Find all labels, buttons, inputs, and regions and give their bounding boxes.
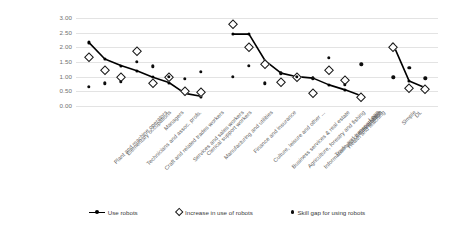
x-axis-tick-label: Finance and insurance [253,110,298,155]
line-segment [233,34,361,96]
legend-item[interactable]: Skill gap for using robots [291,209,365,216]
legend-label: Skill gap for using robots [297,209,365,216]
x-axis-tick-label: Craft and related trades workers [164,110,226,172]
x-axis-tick-label: Services and sales workers [192,110,245,163]
diamond-marker-icon [174,207,183,216]
legend-label: Use robots [108,209,138,216]
x-axis-tick-label: DL [414,110,423,119]
legend-label: Increase in use of robots [185,209,253,216]
x-axis-tick-label: Trade and transportation [334,110,382,158]
x-axis-tick-label: Manufacturing and utilities [223,110,274,161]
x-axis-tick-label: Lean [368,110,381,123]
y-axis-tick: 0.00 [30,103,72,109]
x-axis-tick-label: Elementary occupations [126,110,173,157]
gridline [76,106,438,107]
y-axis-tick: 2.00 [30,44,72,50]
x-axis-tick-label: Business services & real estate [291,110,351,170]
circle-marker-icon [291,210,295,214]
y-axis-tick: 1.50 [30,59,72,65]
use-robots-line [76,18,438,106]
x-axis-tick-label: Information and communication [323,110,383,170]
plot-area [76,18,438,106]
robot-use-chart: 0.000.501.001.502.002.503.00 Plant and m… [0,0,454,227]
y-axis-tick: 3.00 [30,15,72,21]
x-axis-tick-label: Plant and machine operators [113,110,168,165]
legend-item[interactable]: Increase in use of robots [176,209,253,216]
x-axis-tick-label: Health and teaching [347,110,387,150]
x-axis-tick-label: Clerical support workers [206,110,253,157]
legend-item[interactable]: Use robots [89,209,138,216]
y-axis-tick: 2.50 [30,30,72,36]
x-axis-tick-label: Simple [401,110,417,126]
y-axis-tick: 1.00 [30,74,72,80]
x-axis-tick-label: Technicians and assoc. profs. [146,110,203,167]
x-axis-tick-label: Agriculture, forestry and fishing [307,110,367,170]
chart-legend: Use robotsIncrease in use of robotsSkill… [0,204,454,220]
x-axis-tick-label: Culture, leisure and other ... [273,110,327,164]
x-axis-tick-label: Managers [163,110,185,132]
y-axis-tick: 0.50 [30,88,72,94]
line-marker-icon [89,210,105,215]
x-axis-tick-label: Construction [357,110,384,137]
